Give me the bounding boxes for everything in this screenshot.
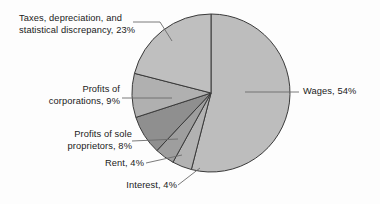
slice-label-sole-proprietors-line2: proprietors, 8% (68, 141, 132, 151)
slice-label-taxes-line2: statistical discrepancy, 23% (19, 25, 135, 35)
slice-label-corporations: Profits ofcorporations, 9% (0, 84, 120, 107)
slice-label-taxes-line1: Taxes, depreciation, and (19, 13, 122, 23)
leader-line-interest (178, 168, 200, 185)
slice-label-corporations-line1: Profits of (82, 84, 120, 94)
slice-label-sole-proprietors: Profits of soleproprietors, 8% (0, 129, 132, 152)
pie-chart-figure: Taxes, depreciation, andstatistical disc… (0, 0, 380, 204)
slice-label-wages: Wages, 54% (303, 86, 356, 98)
slice-label-corporations-line2: corporations, 9% (49, 96, 120, 106)
slice-label-sole-proprietors-line1: Profits of sole (74, 129, 132, 139)
slice-label-taxes: Taxes, depreciation, andstatistical disc… (19, 13, 135, 36)
pie-slices (132, 14, 290, 172)
slice-label-rent: Rent, 4% (0, 158, 144, 170)
slice-label-interest: Interest, 4% (0, 180, 177, 192)
